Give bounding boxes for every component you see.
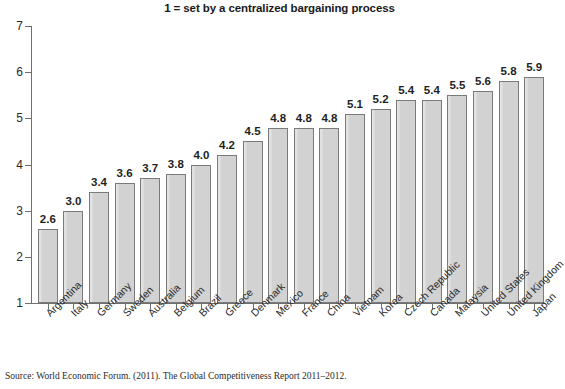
bar	[371, 109, 391, 303]
bar-value-label: 4.5	[237, 126, 269, 138]
y-axis-tick-label: 2	[1, 251, 23, 263]
bar	[268, 128, 288, 303]
bar	[217, 155, 237, 303]
bar-value-label: 4.8	[313, 113, 345, 125]
bar	[140, 178, 160, 303]
y-axis-tick-label-wrap: 4	[0, 159, 23, 171]
y-axis-tick	[25, 72, 31, 73]
source-note: Source: World Economic Forum. (2011). Th…	[5, 371, 347, 381]
bar	[345, 114, 365, 303]
y-axis-tick-label: 4	[1, 159, 23, 171]
y-axis-tick	[25, 303, 31, 304]
bar-value-label: 4.2	[211, 140, 243, 152]
bar	[191, 165, 211, 304]
bar	[319, 128, 339, 303]
y-axis-tick-label-wrap: 2	[0, 251, 23, 263]
y-axis-tick-label-wrap: 6	[0, 66, 23, 78]
y-axis-tick-label: 5	[1, 112, 23, 124]
bar	[473, 91, 493, 303]
y-axis-tick-label: 6	[1, 66, 23, 78]
bar	[38, 229, 58, 303]
bar-value-label: 3.0	[57, 196, 89, 208]
bar	[243, 141, 263, 303]
bar	[89, 192, 109, 303]
y-axis-tick-label: 7	[1, 20, 23, 32]
chart-title: 1 = set by a centralized bargaining proc…	[0, 2, 559, 14]
y-axis-tick	[25, 26, 31, 27]
bar	[294, 128, 314, 303]
y-axis-tick	[25, 118, 31, 119]
bar	[396, 100, 416, 303]
bar	[499, 81, 519, 303]
y-axis-tick-label-wrap: 5	[0, 112, 23, 124]
y-axis-tick-label-wrap: 3	[0, 205, 23, 217]
y-axis-tick-label: 3	[1, 205, 23, 217]
y-axis-tick-label-wrap: 1	[0, 297, 23, 309]
y-axis-tick-label: 1	[1, 297, 23, 309]
bar-value-label: 5.9	[518, 62, 550, 74]
y-axis-tick-label-wrap: 7	[0, 20, 23, 32]
y-axis-tick	[25, 165, 31, 166]
y-axis-line	[31, 26, 32, 304]
y-axis-tick	[25, 211, 31, 212]
y-axis-tick	[25, 257, 31, 258]
bar-value-label: 2.6	[32, 214, 64, 226]
